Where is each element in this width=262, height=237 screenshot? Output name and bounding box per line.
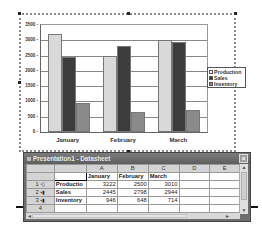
cell[interactable]: Productio bbox=[54, 181, 86, 189]
cell[interactable]: 2500 bbox=[117, 181, 148, 189]
y-tick-label: 1000 - bbox=[22, 98, 38, 103]
y-tick-label: 500 - bbox=[22, 114, 38, 119]
datasheet-grid[interactable]: A B C D E January February March 1 ▫▯ Pr… bbox=[26, 164, 240, 214]
bar-sales-january[interactable] bbox=[62, 57, 76, 132]
datasheet-title: Presentation1 - Datasheet bbox=[33, 155, 110, 162]
bar-production-january[interactable] bbox=[48, 34, 62, 133]
vertical-scrollbar[interactable]: ▲ ▼ bbox=[239, 164, 248, 214]
bar-inventory-january[interactable] bbox=[76, 103, 90, 132]
cell[interactable] bbox=[179, 197, 210, 205]
cell[interactable] bbox=[86, 205, 117, 213]
horizontal-scrollbar[interactable]: ◄ ► bbox=[26, 213, 240, 219]
cell[interactable] bbox=[210, 197, 240, 205]
cell[interactable]: 714 bbox=[148, 197, 179, 205]
bar-production-march[interactable] bbox=[158, 40, 172, 132]
row-header-4[interactable]: 4 bbox=[27, 205, 55, 213]
cell[interactable] bbox=[210, 181, 240, 189]
cell[interactable]: Inventory bbox=[54, 197, 86, 205]
y-tick-label: 2500 - bbox=[22, 53, 38, 58]
y-tick-label: 3500 - bbox=[22, 22, 38, 27]
cell[interactable]: 3010 bbox=[148, 181, 179, 189]
table-row: 4 bbox=[27, 205, 240, 213]
column-header-b[interactable]: B bbox=[117, 165, 148, 173]
bar-sales-march[interactable] bbox=[172, 42, 186, 132]
cell[interactable] bbox=[179, 205, 210, 213]
x-tick-label: January bbox=[48, 137, 88, 143]
cell[interactable] bbox=[179, 181, 210, 189]
y-tick-label: 3000 - bbox=[22, 37, 38, 42]
x-tick-label: March bbox=[158, 137, 198, 143]
column-header-c[interactable]: C bbox=[148, 165, 179, 173]
scroll-thumb[interactable] bbox=[241, 172, 247, 200]
cell[interactable] bbox=[54, 205, 86, 213]
cell[interactable]: February bbox=[117, 173, 148, 181]
x-tick-label: February bbox=[103, 137, 143, 143]
cell[interactable]: 946 bbox=[86, 197, 117, 205]
swatch-icon bbox=[209, 82, 213, 86]
cell[interactable]: 2944 bbox=[148, 189, 179, 197]
bar-sales-february[interactable] bbox=[117, 46, 131, 132]
slide-line-right bbox=[250, 206, 258, 208]
datasheet-window[interactable]: Presentation1 - Datasheet × A B C D E Ja… bbox=[23, 152, 251, 222]
cell[interactable] bbox=[148, 205, 179, 213]
row-header-blank[interactable] bbox=[27, 173, 55, 181]
table-row: 3 ▪▮ Inventory 946 648 714 bbox=[27, 197, 240, 205]
cell[interactable] bbox=[210, 173, 240, 181]
cell[interactable] bbox=[179, 189, 210, 197]
cell[interactable]: 648 bbox=[117, 197, 148, 205]
swatch-icon bbox=[209, 70, 213, 74]
column-header-label[interactable] bbox=[54, 165, 86, 173]
table-row: 2 ▪▮ Sales 2445 2798 2944 bbox=[27, 189, 240, 197]
cell[interactable]: January bbox=[86, 173, 117, 181]
cell[interactable]: March bbox=[148, 173, 179, 181]
cell[interactable]: 2445 bbox=[86, 189, 117, 197]
resize-handle-left[interactable] bbox=[18, 81, 21, 84]
cell[interactable]: 2798 bbox=[117, 189, 148, 197]
column-header-e[interactable]: E bbox=[210, 165, 240, 173]
column-header-a[interactable]: A bbox=[86, 165, 117, 173]
table-row-header: January February March bbox=[27, 173, 240, 181]
column-header-row: A B C D E bbox=[27, 165, 240, 173]
chart-legend[interactable]: Production Sales Inventory bbox=[207, 67, 246, 88]
resize-handle-top-right[interactable] bbox=[234, 12, 237, 15]
bar-inventory-february[interactable] bbox=[131, 112, 145, 132]
scroll-down-arrow-icon[interactable]: ▼ bbox=[240, 207, 248, 214]
scroll-right-arrow-icon[interactable]: ► bbox=[225, 213, 230, 219]
scroll-thumb[interactable] bbox=[32, 214, 187, 218]
datasheet-icon bbox=[27, 157, 31, 161]
legend-item-inventory: Inventory bbox=[209, 81, 244, 87]
plot-area[interactable] bbox=[40, 24, 208, 133]
corner-cell[interactable] bbox=[27, 165, 55, 173]
cell[interactable] bbox=[117, 205, 148, 213]
row-header-3[interactable]: 3 ▪▮ bbox=[27, 197, 55, 205]
column-header-d[interactable]: D bbox=[179, 165, 210, 173]
table-row: 1 ▫▯ Productio 3222 2500 3010 bbox=[27, 181, 240, 189]
resize-handle-top[interactable] bbox=[127, 12, 130, 15]
row-header-1[interactable]: 1 ▫▯ bbox=[27, 181, 55, 189]
legend-label: Inventory bbox=[214, 81, 237, 87]
bar-production-february[interactable] bbox=[103, 56, 117, 132]
cell[interactable] bbox=[210, 189, 240, 197]
resize-handle-top-left[interactable] bbox=[18, 12, 21, 15]
scroll-up-arrow-icon[interactable]: ▲ bbox=[240, 164, 248, 171]
y-tick-label: 1500 - bbox=[22, 83, 38, 88]
cell[interactable] bbox=[179, 173, 210, 181]
row-header-2[interactable]: 2 ▪▮ bbox=[27, 189, 55, 197]
cell[interactable]: Sales bbox=[54, 189, 86, 197]
cell[interactable] bbox=[210, 205, 240, 213]
y-tick-label: 2000 - bbox=[22, 68, 38, 73]
bar-inventory-march[interactable] bbox=[186, 110, 200, 132]
datasheet-titlebar[interactable]: Presentation1 - Datasheet bbox=[24, 153, 250, 164]
selected-cell[interactable] bbox=[54, 173, 86, 181]
cell[interactable]: 3222 bbox=[86, 181, 117, 189]
y-tick-label: 0 - bbox=[22, 129, 38, 134]
swatch-icon bbox=[209, 76, 213, 80]
close-button[interactable]: × bbox=[239, 154, 248, 163]
